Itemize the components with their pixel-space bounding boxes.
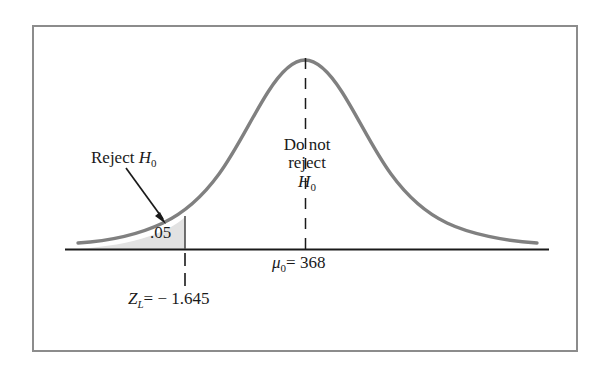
mu-value: 368 (300, 253, 326, 272)
do-not-reject-h-italic: H (298, 172, 310, 191)
do-not-reject-h0-label: Do not reject H0 (262, 136, 352, 193)
reject-h0-label: Reject H0 (91, 149, 156, 169)
reject-h0-h-italic: H (139, 148, 151, 167)
do-not-reject-line-2: reject (262, 154, 352, 172)
alpha-area-value-label: .05 (150, 224, 171, 242)
do-not-reject-line-3: H0 (262, 173, 352, 193)
do-not-reject-line-1: Do not (262, 136, 352, 154)
mean-axis-label: μ0= 368 (272, 254, 325, 274)
mu-equals: = (286, 253, 296, 272)
reject-h0-subscript: 0 (151, 157, 157, 169)
z-equals: = (144, 289, 154, 308)
reject-h0-text: Reject (91, 148, 139, 167)
do-not-reject-subscript: 0 (310, 180, 316, 192)
mu-symbol: μ (272, 253, 281, 272)
critical-value-label: ZL= − 1.645 (128, 290, 210, 310)
figure-root: Reject H0 Do not reject H0 .05 μ0= 368 Z… (0, 0, 607, 372)
z-value: − 1.645 (157, 289, 209, 308)
